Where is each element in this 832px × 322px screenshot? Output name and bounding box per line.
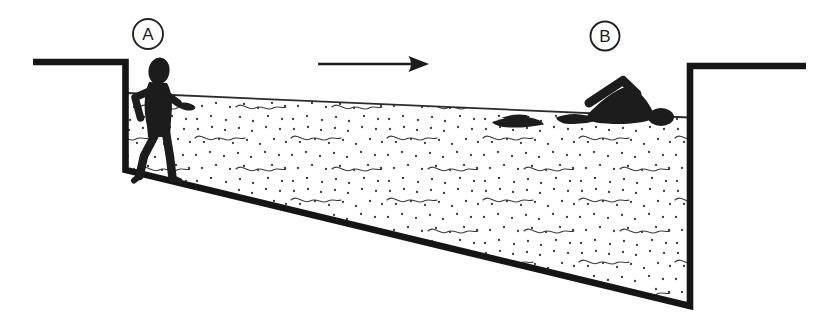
pool-cross-section-svg: A B: [0, 0, 832, 322]
wader-front-foot: [173, 178, 180, 181]
swimmer-torso: [587, 86, 652, 124]
label-point-b: B: [591, 22, 620, 51]
label-b-text: B: [599, 27, 610, 46]
label-point-a: A: [133, 19, 163, 49]
arrow-head: [409, 56, 430, 72]
person-swimming-icon: [492, 81, 674, 128]
arrow-right-icon: [318, 56, 429, 72]
pool-diagram: A B: [0, 0, 832, 322]
label-a-text: A: [142, 25, 154, 44]
wader-back-foot: [134, 176, 140, 181]
water-region: [127, 93, 689, 303]
wader-head: [147, 56, 172, 86]
